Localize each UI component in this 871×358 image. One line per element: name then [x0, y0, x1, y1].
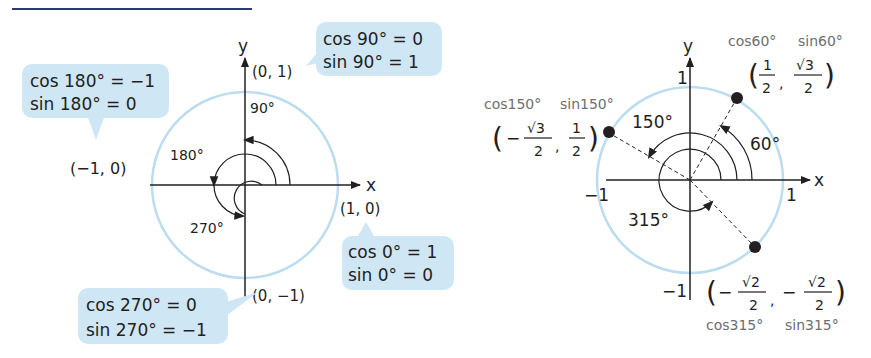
p60-y-den: 2 — [804, 80, 813, 96]
point-0-1-label: (0, 1) — [252, 63, 292, 81]
caption-cos315: cos315° — [706, 317, 763, 333]
caption-sin60: sin60° — [798, 33, 843, 49]
callout-90-cos: cos 90° = 0 — [323, 29, 423, 49]
point-60-dot — [731, 92, 743, 104]
angle-315-label: 315° — [628, 210, 669, 230]
left-unit-circle-diagram: x y 90° 180° 270° (0, 1) (−1, 0) (1, 0) … — [22, 22, 454, 344]
callout-180-cos: cos 180° = −1 — [30, 71, 155, 91]
point-neg1-0-label: (−1, 0) — [70, 159, 126, 178]
callout-180-sin: sin 180° = 0 — [30, 94, 137, 114]
radius-315 — [690, 180, 754, 246]
callout-90-sin: sin 90° = 1 — [323, 52, 419, 72]
caption-cos150: cos150° — [484, 96, 541, 112]
tick-pos-y: 1 — [677, 68, 688, 88]
callout-180: cos 180° = −1 sin 180° = 0 — [22, 64, 169, 140]
callout-0-sin: sin 0° = 0 — [348, 265, 433, 285]
p150-y-num: 1 — [572, 120, 581, 136]
p315-y-num: √2 — [808, 274, 826, 290]
arc-150 — [649, 133, 737, 180]
p60-y-num: √3 — [796, 57, 814, 73]
x-axis-label: x — [366, 175, 376, 195]
callout-0: cos 0° = 1 sin 0° = 0 — [342, 222, 454, 290]
p315-y-sign: − — [782, 282, 796, 302]
paren-close: ) — [824, 59, 835, 92]
angle-90-label: 90° — [250, 100, 275, 116]
callout-90: cos 90° = 0 sin 90° = 1 — [306, 22, 442, 76]
point-150-coordinates: cos150° sin150° ( − √3 2 , 1 2 ) — [484, 96, 614, 159]
p150-x-den: 2 — [534, 143, 543, 159]
comma: , — [555, 138, 559, 154]
p60-x-num: 1 — [763, 57, 772, 73]
p150-x-num: √3 — [527, 120, 545, 136]
paren-close: ) — [835, 276, 846, 309]
comma: , — [770, 292, 774, 308]
point-150-dot — [603, 126, 615, 138]
caption-sin315: sin315° — [785, 317, 839, 333]
point-315-dot — [749, 241, 761, 253]
p315-x-den: 2 — [749, 297, 758, 313]
angle-150-label: 150° — [632, 112, 673, 132]
y-axis-label-right: y — [683, 36, 693, 56]
right-unit-circle-diagram: x y 1 −1 1 −1 60° 150° 315° cos60° sin60… — [484, 33, 846, 333]
x-axis-label-right: x — [814, 170, 824, 190]
paren-close: ) — [588, 122, 599, 155]
callout-270-cos: cos 270° = 0 — [86, 295, 197, 315]
p315-y-den: 2 — [815, 297, 824, 313]
callout-270: cos 270° = 0 sin 270° = −1 — [78, 288, 258, 344]
angle-180-label: 180° — [170, 147, 204, 163]
arc-270 — [234, 181, 262, 214]
point-0-neg1-label: (0, −1) — [252, 287, 305, 305]
caption-sin150: sin150° — [560, 96, 614, 112]
callout-270-sin: sin 270° = −1 — [86, 320, 207, 340]
tick-pos-x: 1 — [786, 185, 797, 205]
p60-x-den: 2 — [762, 80, 771, 96]
angle-60-label: 60° — [750, 134, 780, 154]
caption-cos60: cos60° — [728, 33, 776, 49]
y-axis-label: y — [238, 36, 248, 56]
p150-x-sign: − — [506, 128, 520, 148]
angle-270-label: 270° — [190, 220, 224, 236]
p315-x-sign: − — [718, 282, 732, 302]
point-60-coordinates: cos60° sin60° ( 1 2 , √3 2 ) — [728, 33, 843, 96]
point-315-coordinates: ( − √2 2 , − √2 2 ) cos315° sin315° — [706, 274, 846, 333]
point-1-0-label: (1, 0) — [340, 200, 380, 218]
tick-neg-y: −1 — [662, 281, 687, 301]
comma: , — [779, 75, 783, 91]
callout-0-cos: cos 0° = 1 — [348, 242, 437, 262]
arc-270-path — [214, 185, 243, 216]
arc-90 — [245, 140, 290, 185]
tick-neg-x: −1 — [584, 185, 609, 205]
paren-open: ( — [706, 276, 717, 309]
p315-x-num: √2 — [742, 274, 760, 290]
p150-y-den: 2 — [572, 143, 581, 159]
paren-open: ( — [748, 59, 759, 92]
paren-open: ( — [492, 122, 503, 155]
